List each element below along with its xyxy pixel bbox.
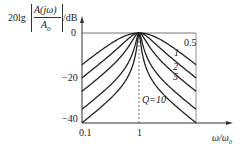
bandpass-bode-plot — [0, 0, 247, 149]
y-tick-0: 0 — [71, 28, 76, 38]
abs-bar-left — [31, 4, 32, 32]
curve-label-q0.5: 0.5 — [184, 38, 197, 48]
y-label-unit: /dB — [63, 13, 77, 23]
curve-label-q1: 1 — [174, 48, 179, 58]
curve-label-q10: Q=10 — [142, 95, 166, 105]
fraction-bar — [34, 17, 61, 18]
y-tick-minus40: −40 — [62, 114, 78, 124]
y-label-prefix: 20lg — [8, 13, 26, 23]
y-axis-arrow-icon — [80, 16, 84, 23]
x-axis-arrow-icon — [226, 121, 233, 125]
x-tick-1: 1 — [137, 128, 142, 138]
x-tick-0.1: 0.1 — [79, 128, 92, 138]
curve-label-q5: 5 — [173, 72, 178, 82]
y-label-numerator: A(jω) — [34, 5, 57, 15]
x-axis-label: ω/ω0 — [212, 133, 232, 147]
y-tick-minus20: −20 — [62, 73, 78, 83]
y-label-denominator: A0 — [41, 20, 51, 34]
